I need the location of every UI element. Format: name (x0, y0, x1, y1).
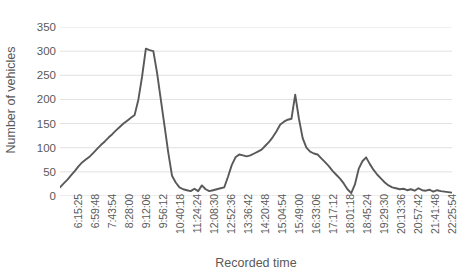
y-tick-label-300: 300 (24, 46, 56, 56)
x-tick-label-15: 17:17:12 (328, 194, 339, 250)
x-tick-label-12: 15:04:54 (277, 194, 288, 250)
y-axis-title: Number of vehicles (2, 2, 20, 198)
x-tick-label-2: 7:43:54 (107, 194, 118, 250)
y-tick-label-0: 0 (24, 191, 56, 201)
y-tick-label-250: 250 (24, 70, 56, 80)
x-tick-label-19: 20:13:36 (396, 194, 407, 250)
x-tick-label-3: 8:28:00 (124, 194, 135, 250)
plot-area (60, 27, 452, 196)
x-tick-label-13: 15:49:00 (294, 194, 305, 250)
x-tick-label-11: 14:20:48 (260, 194, 271, 250)
x-axis-title: Recorded time (60, 256, 452, 270)
y-tick-label-50: 50 (24, 167, 56, 177)
x-tick-label-21: 21:41:48 (430, 194, 441, 250)
x-axis-tick-labels: 6:15:256:59:487:43:548:28:009:12:069:56:… (60, 196, 452, 252)
gridlines (60, 27, 452, 196)
x-tick-label-22: 22:25:54 (447, 194, 458, 250)
x-tick-label-16: 18:01:18 (345, 194, 356, 250)
x-tick-label-10: 13:36:42 (243, 194, 254, 250)
x-tick-label-8: 12:08:30 (209, 194, 220, 250)
y-tick-label-350: 350 (24, 22, 56, 32)
y-tick-label-100: 100 (24, 143, 56, 153)
x-tick-label-5: 9:56:12 (158, 194, 169, 250)
x-tick-label-9: 12:52:36 (226, 194, 237, 250)
y-axis-tick-labels: 050100150200250300350 (20, 0, 56, 279)
x-tick-label-20: 20:57:42 (413, 194, 424, 250)
x-tick-label-17: 18:45:24 (362, 194, 373, 250)
x-tick-label-7: 11:24:24 (192, 194, 203, 250)
x-tick-label-14: 16:33:06 (311, 194, 322, 250)
vehicle-count-series (60, 49, 452, 193)
y-tick-label-150: 150 (24, 119, 56, 129)
x-tick-label-0: 6:15:25 (73, 194, 84, 250)
x-tick-label-6: 10:40:18 (175, 194, 186, 250)
plot-svg (60, 27, 452, 196)
vehicle-count-line-chart: Number of vehicles 050100150200250300350… (0, 0, 465, 279)
x-tick-label-1: 6:59:48 (90, 194, 101, 250)
x-tick-label-18: 19:29:30 (379, 194, 390, 250)
y-tick-label-200: 200 (24, 94, 56, 104)
x-tick-label-4: 9:12:06 (141, 194, 152, 250)
